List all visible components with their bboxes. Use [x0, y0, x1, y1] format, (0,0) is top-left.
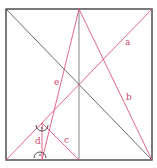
label-b: b — [126, 92, 132, 102]
construction-lines — [6, 9, 152, 160]
line-e — [42, 9, 79, 160]
label-e: e — [54, 77, 59, 87]
label-a: a — [125, 37, 131, 47]
line-c — [42, 123, 79, 160]
line-b — [79, 9, 152, 160]
geometry-diagram: abecd — [0, 0, 157, 168]
label-c: c — [64, 135, 69, 145]
label-d: d — [35, 136, 41, 146]
